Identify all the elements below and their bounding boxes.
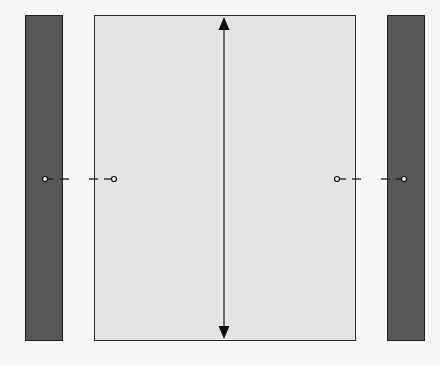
diagram-canvas — [0, 0, 440, 365]
center-panel — [94, 15, 356, 341]
right-side-bar — [387, 15, 425, 341]
left-side-bar — [25, 15, 63, 341]
